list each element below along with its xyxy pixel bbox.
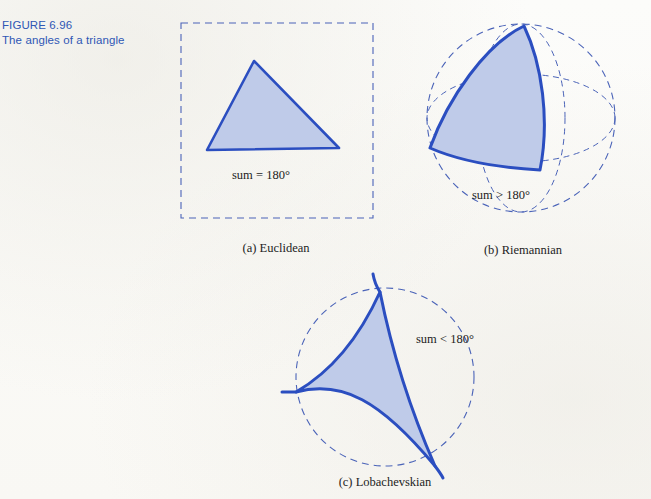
cusp-tail-top — [373, 274, 380, 292]
spherical-triangle — [430, 26, 544, 170]
riemannian-diagram — [400, 0, 651, 270]
hyperbolic-triangle — [296, 292, 435, 466]
panel-riemannian: sum > 180° (b) Riemannian — [400, 0, 651, 270]
figure-page: FIGURE 6.96 The angles of a triangle sum… — [0, 0, 651, 499]
caption-riemannian: (b) Riemannian — [400, 243, 646, 258]
euclidean-diagram — [0, 0, 400, 270]
panel-euclidean: sum = 180° (a) Euclidean — [0, 0, 400, 270]
sum-label-riemannian: sum > 180° — [472, 188, 530, 203]
caption-lobachevskian: (c) Lobachevskian — [230, 475, 540, 490]
sum-label-lobachevskian: sum < 180° — [416, 332, 474, 347]
lobachevskian-diagram — [230, 270, 651, 499]
sum-label-euclidean: sum = 180° — [232, 168, 290, 183]
euclidean-triangle — [207, 61, 339, 150]
panel-lobachevskian: sum < 180° (c) Lobachevskian — [230, 270, 651, 499]
